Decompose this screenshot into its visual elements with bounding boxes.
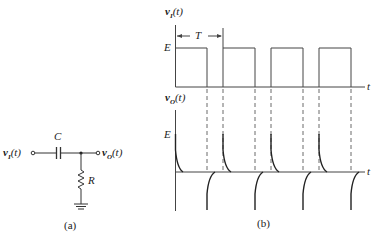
negative-spike-2 [255,172,263,210]
period-label: T [195,30,201,41]
input-waveform [176,25,366,87]
negative-spike-4 [351,172,359,210]
input-waveform-title: vI(t) [165,6,183,20]
negative-spike-3 [303,172,311,210]
square-pulse-2 [223,48,255,87]
output-terminal [96,151,100,155]
caption-b: (b) [257,218,270,229]
input-level-label: E [164,42,171,53]
input-time-label: t [367,81,370,92]
positive-spike-4 [319,134,327,172]
square-pulse-1 [176,48,208,87]
circuit-output-label: vO(t) [102,147,122,161]
dashed-guides [207,89,351,172]
positive-spike-2 [223,134,231,172]
output-level-label: E [164,129,171,140]
caption-a: (a) [64,220,76,231]
resistor-label: R [88,175,95,186]
positive-spike-3 [271,134,279,172]
negative-spike-1 [207,172,215,210]
circuit-input-label: vI(t) [3,147,21,161]
input-terminal [31,151,35,155]
capacitor-label: C [54,131,61,142]
positive-spike-1 [176,134,184,172]
square-pulse-4 [319,48,351,87]
output-time-label: t [367,166,370,177]
resistor-zigzag [78,170,84,189]
output-waveform [176,110,366,211]
output-waveform-title: vO(t) [165,92,185,106]
square-pulse-3 [271,48,303,87]
diagram-canvas [0,0,378,239]
